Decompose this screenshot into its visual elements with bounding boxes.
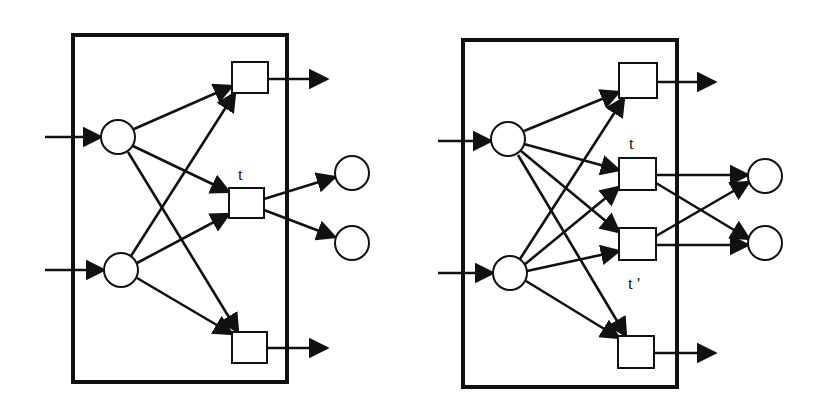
arc-arrow <box>137 278 232 334</box>
arc-arrow <box>520 98 624 259</box>
transition-label-t: t <box>629 134 634 153</box>
arc-arrow <box>264 210 335 237</box>
arc-arrow <box>527 251 619 271</box>
transition-t-top <box>619 63 657 98</box>
transition-t-prime <box>619 228 656 260</box>
arc-arrow <box>131 93 235 256</box>
transition-t <box>619 158 656 190</box>
place-p-out-bottom <box>335 226 369 260</box>
transition-label-t-prime: t ' <box>628 274 640 293</box>
place-p-out-top <box>335 156 369 190</box>
place-p-in-top <box>101 120 135 154</box>
transition-t-bottom <box>618 336 654 368</box>
arc-arrow <box>526 281 619 338</box>
place-p-in-bottom <box>493 256 527 290</box>
diagram-left-net: t <box>45 35 369 382</box>
arc-arrow <box>521 151 619 232</box>
transition-label-t: t <box>238 165 243 184</box>
petri-net-figure: t tt ' <box>0 0 820 411</box>
place-p-in-bottom <box>104 253 138 287</box>
transition-t <box>229 188 264 218</box>
arc-arrow <box>137 214 229 263</box>
arc-arrow <box>524 92 619 131</box>
transition-t-bottom <box>232 332 267 363</box>
diagram-right-net: tt ' <box>438 40 782 387</box>
arc-arrow <box>264 177 335 199</box>
transition-t-top <box>232 62 268 93</box>
place-p-in-top <box>491 122 525 156</box>
place-p-out-bottom <box>748 226 782 260</box>
place-p-out-top <box>748 159 782 193</box>
